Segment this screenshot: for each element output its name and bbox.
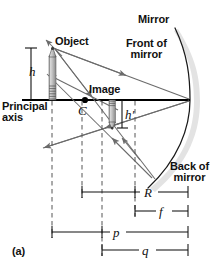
front-of-mirror-line2: mirror (126, 49, 167, 60)
concave-mirror-ray-diagram: Mirror Front of mirror Object Image Prin… (0, 0, 223, 269)
principal-axis-line2: axis (2, 112, 48, 123)
back-of-mirror-line2: mirror (170, 172, 209, 183)
object-label: Object (55, 36, 89, 47)
ray-group (43, 40, 189, 179)
radius-of-curvature-symbol: R (144, 186, 152, 199)
mirror-label: Mirror (138, 14, 169, 25)
dimension-guide-lines (52, 101, 135, 256)
object-distance-symbol: p (113, 226, 120, 239)
image-distance-symbol: q (142, 244, 149, 257)
principal-axis-label: Principal axis (2, 101, 48, 124)
object-arrow (49, 47, 56, 101)
back-of-mirror-label: Back of mirror (170, 161, 209, 184)
dimension-R (82, 186, 188, 198)
center-of-curvature-symbol: C (78, 104, 87, 117)
diagram-canvas (0, 0, 223, 269)
front-of-mirror-label: Front of mirror (126, 38, 167, 61)
dimension-p (52, 226, 188, 238)
image-height-symbol: h′ (125, 108, 134, 121)
reflected-ray-from-vertex (43, 101, 189, 148)
image-label: Image (89, 84, 120, 95)
focal-length-symbol: f (159, 205, 163, 218)
object-height-symbol: h (29, 65, 36, 78)
panel-label: (a) (12, 246, 25, 257)
